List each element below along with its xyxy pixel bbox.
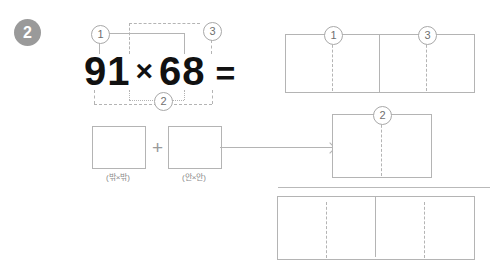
flow-arrow-line [220, 147, 332, 148]
work-box-outside-label: (밖×밖) [82, 171, 154, 182]
connector-two-outer-right [212, 90, 213, 104]
badge-three-top: 3 [203, 22, 222, 41]
equals-sign: = [206, 54, 237, 92]
equation-expression: 91×68= [84, 50, 236, 96]
connector-three-span [129, 23, 200, 24]
result-box-one-divider [332, 40, 333, 91]
equation-right-factor: 68 [159, 49, 206, 93]
work-box-outside[interactable] [92, 126, 146, 169]
badge-one-result: 1 [324, 26, 343, 45]
worksheet-page: 2 1 3 91×68= 2 (밖×밖) + (안×안) 1 3 2 [0, 0, 500, 272]
connector-two-inner-span-left [129, 100, 155, 101]
result-box-total-divider-2 [375, 197, 376, 257]
badge-three-result: 3 [418, 26, 437, 45]
badge-one-top: 1 [91, 25, 110, 44]
result-box-two-divider [381, 120, 382, 176]
work-box-inside[interactable] [168, 126, 222, 169]
connector-two-outer-left [94, 90, 95, 104]
badge-two-result: 2 [373, 106, 392, 125]
section-separator-rule [278, 187, 490, 188]
result-box-total-divider-1 [326, 202, 327, 258]
problem-number-badge: 2 [14, 19, 41, 46]
plus-sign: + [152, 138, 163, 157]
work-box-inside-label: (안×안) [158, 171, 230, 182]
connector-one-span [108, 33, 184, 34]
badge-two-bottom: 2 [154, 92, 173, 111]
connector-two-inner-span-right [172, 100, 184, 101]
multiplication-sign: × [131, 54, 160, 87]
equation-left-factor: 91 [84, 49, 131, 93]
result-box-total[interactable] [277, 196, 475, 260]
result-box-three-divider [426, 40, 427, 91]
connector-two-inner-right [184, 90, 185, 100]
result-box-total-divider-3 [424, 202, 425, 258]
connector-two-inner-left [129, 90, 130, 100]
connector-two-outer-span [94, 104, 212, 105]
